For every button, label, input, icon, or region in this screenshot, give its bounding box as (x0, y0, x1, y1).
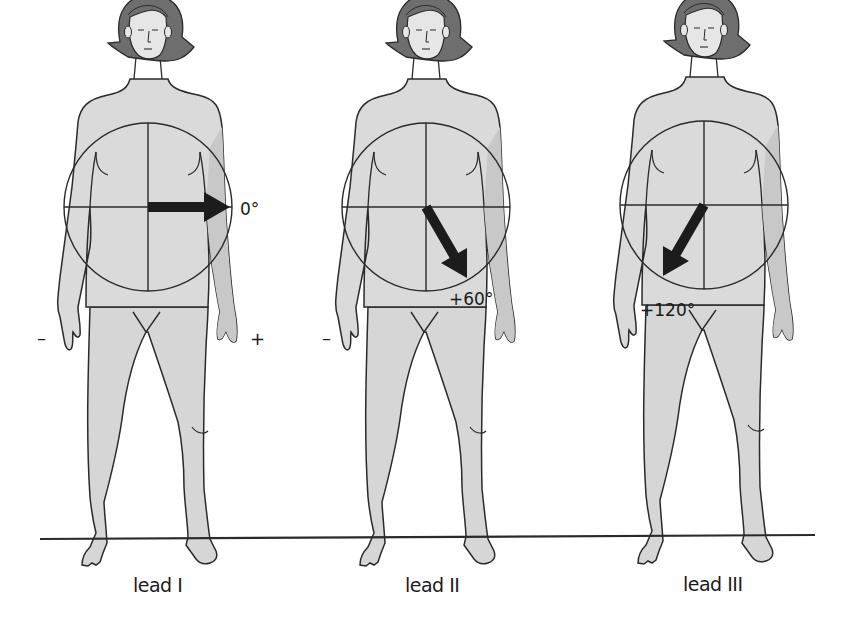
caption-lead-i: lead I (133, 574, 182, 596)
figure-lead-i (58, 0, 237, 566)
caption-lead-iii: lead III (683, 573, 743, 595)
positive-sign-lead-i: + (250, 328, 265, 349)
figure-lead-ii (336, 0, 515, 566)
negative-sign-lead-ii: – (322, 327, 331, 348)
negative-sign-lead-i: – (37, 327, 46, 348)
angle-label-lead-iii: +120° (640, 300, 695, 320)
ground-line (40, 535, 815, 539)
figure-lead-iii (614, 0, 793, 564)
caption-lead-ii: lead II (405, 574, 459, 596)
angle-label-lead-i: 0° (240, 199, 259, 219)
angle-label-lead-ii: +60° (449, 289, 493, 309)
einthoven-leads-diagram (0, 0, 863, 628)
